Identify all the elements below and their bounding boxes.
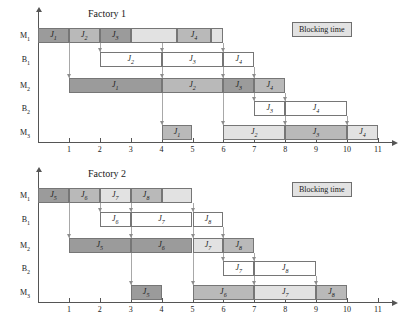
legend-blocking-time: Blocking time [292,182,352,197]
x-axis-tick-label: 9 [309,305,323,314]
x-axis-tick-label: 7 [247,145,261,154]
row-label-m1: M1 [10,191,30,202]
x-axis-arrow-icon [392,300,398,306]
x-axis-arrow-icon [392,140,398,146]
x-axis-tick [193,138,194,143]
gantt-bar-job-7: J7 [254,285,316,300]
x-axis-tick-label: 2 [93,305,107,314]
x-axis-tick-label: 8 [278,305,292,314]
x-axis-tick-label: 5 [186,145,200,154]
row-label-b2: B2 [10,264,30,275]
x-axis [38,302,392,303]
x-axis-tick-label: 7 [247,305,261,314]
gantt-chart-factory-2: Factory 21234567891011M1B1M2B2M3J5J6J7J8… [0,160,411,316]
gantt-bar-job-7: J7 [223,261,254,276]
gantt-bar-blocking [162,188,193,203]
gantt-bar-job-5: J5 [131,285,162,300]
x-axis-tick-label: 10 [340,145,354,154]
x-axis-tick [378,298,379,303]
x-axis-tick [378,138,379,143]
gantt-bar-job-4: J4 [285,101,347,116]
gantt-bar-job-2: J2 [223,125,285,140]
gantt-bar-job-7: J7 [193,238,224,253]
x-axis-tick [100,298,101,303]
y-axis-arrow-icon [36,7,42,12]
x-axis-tick-label: 8 [278,145,292,154]
x-axis-tick-label: 10 [340,305,354,314]
connector-line [69,43,70,78]
chart-title: Factory 1 [88,8,126,19]
gantt-bar-job-8: J8 [254,261,316,276]
row-label-b1: B1 [10,55,30,66]
row-label-m3: M3 [10,288,30,299]
x-axis-tick-label: 9 [309,145,323,154]
x-axis-tick-label: 3 [124,145,138,154]
row-label-b1: B1 [10,215,30,226]
gantt-bar-job-8: J8 [223,238,254,253]
row-label-m3: M3 [10,128,30,139]
x-axis-tick-label: 4 [155,305,169,314]
x-axis-tick-label: 4 [155,145,169,154]
gantt-bar-job-5: J5 [38,188,69,203]
gantt-bar-job-3: J3 [100,28,131,43]
x-axis-tick-label: 1 [62,305,76,314]
gantt-bar-job-1: J1 [38,28,69,43]
x-axis-tick-label: 6 [216,145,230,154]
gantt-bar-job-4: J4 [254,78,285,93]
connector-line [69,203,70,238]
gantt-bar-job-6: J6 [193,285,255,300]
chart-title: Factory 2 [88,168,126,179]
gantt-bar-blocking [211,28,223,43]
x-axis-tick-label: 5 [186,305,200,314]
x-axis-tick-label: 3 [124,305,138,314]
gantt-bar-job-8: J8 [193,212,224,227]
row-label-m2: M2 [10,81,30,92]
row-label-b2: B2 [10,104,30,115]
gantt-bar-job-1: J1 [69,78,162,93]
gantt-bar-job-4: J4 [347,125,378,140]
gantt-bar-job-5: J5 [69,238,131,253]
x-axis-tick-label: 11 [371,145,385,154]
x-axis-tick [347,298,348,303]
gantt-bar-job-4: J4 [177,28,211,43]
x-axis-tick-label: 11 [371,305,385,314]
x-axis-tick [69,298,70,303]
gantt-bar-job-1: J1 [162,125,193,140]
gantt-bar-job-8: J8 [131,188,162,203]
gantt-bar-job-3: J3 [285,125,347,140]
gantt-chart-factory-1: Factory 11234567891011M1B1M2B2M3J1J2J3J4… [0,0,411,156]
x-axis [38,142,392,143]
gantt-bar-job-6: J6 [69,188,100,203]
legend-blocking-time: Blocking time [292,22,352,37]
row-label-m2: M2 [10,241,30,252]
gantt-bar-job-7: J7 [100,188,131,203]
gantt-bar-job-2: J2 [69,28,100,43]
x-axis-tick [69,138,70,143]
gantt-bar-job-3: J3 [254,101,285,116]
gantt-bar-job-6: J6 [131,238,193,253]
y-axis-arrow-icon [36,167,42,172]
gantt-bar-job-4: J4 [223,52,254,67]
row-label-m1: M1 [10,31,30,42]
x-axis-tick [131,138,132,143]
gantt-bar-job-2: J2 [100,52,162,67]
x-axis-tick-label: 1 [62,145,76,154]
gantt-bar-job-2: J2 [162,78,224,93]
gantt-bar-job-6: J6 [100,212,131,227]
gantt-bar-job-8: J8 [316,285,347,300]
gantt-bar-job-3: J3 [223,78,254,93]
x-axis-tick-label: 2 [93,145,107,154]
gantt-bar-job-3: J3 [162,52,224,67]
gantt-bar-job-7: J7 [131,212,193,227]
x-axis-tick-label: 6 [216,305,230,314]
gantt-bar-blocking [131,28,177,43]
x-axis-tick [162,298,163,303]
x-axis-tick [100,138,101,143]
